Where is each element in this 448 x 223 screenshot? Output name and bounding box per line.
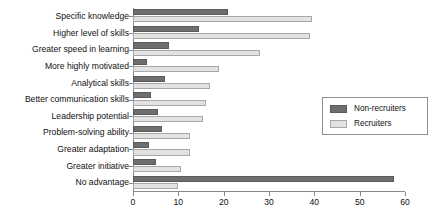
bar-non-recruiters bbox=[133, 76, 165, 82]
x-axis-tick-label: 40 bbox=[299, 198, 329, 207]
bar-non-recruiters bbox=[133, 92, 151, 98]
category-label: Greater initiative bbox=[1, 162, 129, 171]
bar-non-recruiters bbox=[133, 176, 394, 182]
x-axis-tick bbox=[314, 192, 315, 196]
x-axis-tick bbox=[178, 192, 179, 196]
bar-group bbox=[133, 75, 405, 92]
category-label: Problem-solving ability bbox=[1, 128, 129, 137]
bar-recruiters bbox=[133, 83, 210, 89]
bar-recruiters bbox=[133, 50, 260, 56]
bar-group bbox=[133, 8, 405, 25]
bar-non-recruiters bbox=[133, 9, 228, 15]
legend-swatch-recruiters bbox=[330, 120, 347, 129]
x-axis-tick bbox=[405, 192, 406, 196]
category-label: Leadership potential bbox=[1, 112, 129, 121]
x-axis-tick bbox=[269, 192, 270, 196]
bar-non-recruiters bbox=[133, 42, 169, 48]
bar-non-recruiters bbox=[133, 126, 162, 132]
bar-non-recruiters bbox=[133, 142, 149, 148]
bar-group bbox=[133, 58, 405, 75]
category-label: Greater speed in learning bbox=[1, 45, 129, 54]
category-label: Higher level of skills bbox=[1, 29, 129, 38]
bar-non-recruiters bbox=[133, 59, 147, 65]
category-label: No advantage bbox=[1, 178, 129, 187]
x-axis-tick-label: 50 bbox=[345, 198, 375, 207]
bar-recruiters bbox=[133, 16, 312, 22]
bar-recruiters bbox=[133, 149, 190, 155]
bar-non-recruiters bbox=[133, 26, 199, 32]
bar-recruiters bbox=[133, 183, 178, 189]
bar-recruiters bbox=[133, 116, 203, 122]
bar-recruiters bbox=[133, 33, 310, 39]
bar-non-recruiters bbox=[133, 159, 156, 165]
bar-recruiters bbox=[133, 66, 219, 72]
category-label: Better communication skills bbox=[1, 95, 129, 104]
x-axis-tick bbox=[224, 192, 225, 196]
legend-swatch-non-recruiters bbox=[330, 105, 347, 114]
bar-recruiters bbox=[133, 100, 206, 106]
chart-legend: Non-recruiters Recruiters bbox=[322, 97, 428, 135]
bar-group bbox=[133, 174, 405, 191]
x-axis-tick-label: 10 bbox=[163, 198, 193, 207]
category-label: Specific knowledge bbox=[1, 12, 129, 21]
x-axis-tick bbox=[360, 192, 361, 196]
category-label: Greater adaptation bbox=[1, 145, 129, 154]
bar-non-recruiters bbox=[133, 109, 158, 115]
bar-recruiters bbox=[133, 133, 190, 139]
bar-chart: Specific knowledgeHigher level of skills… bbox=[0, 0, 448, 223]
x-axis-tick-label: 20 bbox=[209, 198, 239, 207]
x-axis-tick-label: 0 bbox=[118, 198, 148, 207]
category-label: More highly motivated bbox=[1, 62, 129, 71]
bar-group bbox=[133, 158, 405, 175]
category-label: Analytical skills bbox=[1, 79, 129, 88]
bar-group bbox=[133, 141, 405, 158]
bar-recruiters bbox=[133, 166, 181, 172]
x-axis-tick bbox=[133, 192, 134, 196]
legend-label-recruiters: Recruiters bbox=[354, 118, 391, 130]
bar-group bbox=[133, 41, 405, 58]
bar-group bbox=[133, 25, 405, 42]
x-axis-tick-label: 30 bbox=[254, 198, 284, 207]
legend-label-non-recruiters: Non-recruiters bbox=[354, 103, 406, 115]
x-axis-tick-label: 60 bbox=[390, 198, 420, 207]
